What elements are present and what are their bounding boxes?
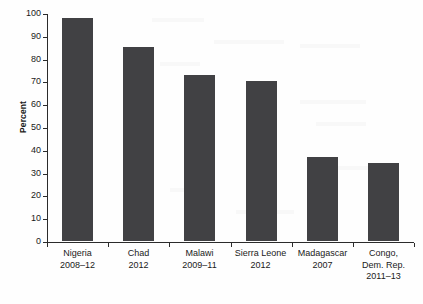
x-axis-label-line: Dem. Rep. xyxy=(353,260,414,272)
y-tick-mark xyxy=(43,219,47,220)
y-tick-mark xyxy=(43,196,47,197)
x-axis-label-line: Malawi xyxy=(169,248,230,260)
y-tick-label: 10 xyxy=(19,213,41,223)
y-tick: 20 xyxy=(47,196,48,197)
bar xyxy=(246,81,277,241)
y-tick: 100 xyxy=(47,14,48,15)
y-tick-label: 30 xyxy=(19,168,41,178)
x-axis-label: Madagascar2007 xyxy=(292,248,353,271)
y-tick-mark xyxy=(43,14,47,15)
y-tick: 60 xyxy=(47,105,48,106)
x-axis-label-line: Sierra Leone xyxy=(230,248,291,260)
plot-area: 0102030405060708090100 xyxy=(47,14,414,242)
bar-chart-figure: Percent 0102030405060708090100 Nigeria20… xyxy=(0,0,423,304)
y-tick: 10 xyxy=(47,219,48,220)
y-axis-label: Percent xyxy=(18,82,28,152)
x-axis-label: Congo,Dem. Rep.2011–13 xyxy=(353,248,414,283)
y-tick-label: 0 xyxy=(19,236,41,246)
y-tick-label: 60 xyxy=(19,99,41,109)
bar xyxy=(62,18,93,241)
x-tick-mark xyxy=(353,243,354,247)
y-tick: 70 xyxy=(47,82,48,83)
y-tick-label: 40 xyxy=(19,145,41,155)
x-axis-label-line: 2012 xyxy=(108,260,169,272)
y-tick-label: 50 xyxy=(19,122,41,132)
y-tick-mark xyxy=(43,151,47,152)
x-axis-label-line: 2009–11 xyxy=(169,260,230,272)
y-tick-label: 20 xyxy=(19,190,41,200)
x-axis-label-line: Nigeria xyxy=(47,248,108,260)
y-tick: 40 xyxy=(47,151,48,152)
y-tick-label: 100 xyxy=(19,8,41,18)
x-tick-mark xyxy=(169,243,170,247)
x-tick-mark xyxy=(47,243,48,247)
x-axis-category-labels: Nigeria2008–12Chad2012Malawi2009–11Sierr… xyxy=(47,248,414,304)
x-axis-label-line: 2011–13 xyxy=(353,271,414,283)
y-tick-label: 70 xyxy=(19,76,41,86)
y-tick-mark xyxy=(43,82,47,83)
bar xyxy=(368,163,399,241)
bar xyxy=(184,75,215,241)
y-tick-mark xyxy=(43,37,47,38)
y-tick-label: 90 xyxy=(19,31,41,41)
x-tick-mark xyxy=(414,243,415,247)
y-tick-mark xyxy=(43,128,47,129)
y-tick: 80 xyxy=(47,60,48,61)
x-tick-mark xyxy=(231,243,232,247)
bar xyxy=(307,157,338,241)
x-axis-label-line: Chad xyxy=(108,248,169,260)
y-tick-mark xyxy=(43,174,47,175)
x-tick-mark xyxy=(108,243,109,247)
x-axis-label-line: 2007 xyxy=(292,260,353,272)
x-axis-label: Malawi2009–11 xyxy=(169,248,230,271)
x-axis-label-line: 2008–12 xyxy=(47,260,108,272)
y-tick-label: 80 xyxy=(19,54,41,64)
y-tick: 50 xyxy=(47,128,48,129)
x-axis-label-line: Congo, xyxy=(353,248,414,260)
x-axis-label: Sierra Leone2012 xyxy=(230,248,291,271)
x-axis-label: Chad2012 xyxy=(108,248,169,271)
y-tick: 30 xyxy=(47,174,48,175)
x-axis-label: Nigeria2008–12 xyxy=(47,248,108,271)
bar xyxy=(123,47,154,241)
y-tick: 90 xyxy=(47,37,48,38)
x-axis-label-line: 2012 xyxy=(230,260,291,272)
x-tick-mark xyxy=(292,243,293,247)
y-tick-mark xyxy=(43,105,47,106)
y-tick-mark xyxy=(43,60,47,61)
x-axis-label-line: Madagascar xyxy=(292,248,353,260)
